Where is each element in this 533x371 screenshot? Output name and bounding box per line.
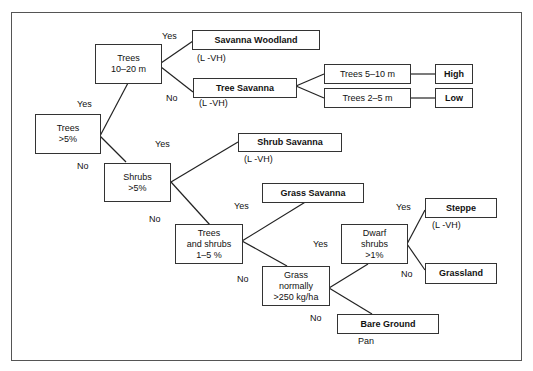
node-dwarf-shrubs: Dwarf shrubs >1% (341, 224, 408, 264)
edge-label-no: No (237, 274, 249, 284)
edge-label-yes: Yes (155, 139, 170, 149)
node-trees-and-shrubs: Trees and shrubs 1–5 % (175, 224, 243, 264)
node-steppe: Steppe (425, 198, 497, 218)
node-shrubs-5: Shrubs >5% (104, 163, 171, 202)
edge-label-no: No (310, 313, 322, 323)
annotation-bare-ground: Pan (358, 336, 374, 346)
annotation-tree-savanna: (L -VH) (199, 98, 228, 108)
node-tree-savanna: Tree Savanna (193, 78, 297, 98)
node-grass-normally: Grass normally >250 kg/ha (262, 266, 330, 306)
edge-label-yes: Yes (234, 201, 249, 211)
edge-label-yes: Yes (162, 31, 177, 41)
edge-label-yes: Yes (77, 99, 92, 109)
node-bare-ground: Bare Ground (337, 314, 439, 334)
annotation-savanna-woodland: (L -VH) (197, 53, 226, 63)
edge-label-yes: Yes (396, 202, 411, 212)
node-shrub-savanna: Shrub Savanna (238, 133, 342, 152)
edge-label-no: No (149, 214, 161, 224)
node-savanna-woodland: Savanna Woodland (192, 30, 320, 50)
edge-label-no: No (77, 161, 89, 171)
node-grass-savanna: Grass Savanna (262, 183, 364, 203)
annotation-steppe: (L -VH) (432, 220, 461, 230)
node-low: Low (435, 88, 473, 108)
edge-label-no: No (401, 269, 413, 279)
node-high: High (435, 64, 473, 84)
edge-label-yes: Yes (313, 239, 328, 249)
edge-label-no: No (166, 93, 178, 103)
node-trees-5-10: Trees 5–10 m (324, 64, 411, 84)
node-trees-2-5: Trees 2–5 m (324, 88, 411, 108)
node-trees-10-20: Trees 10–20 m (95, 44, 162, 84)
annotation-shrub-savanna: (L -VH) (244, 154, 273, 164)
node-grassland: Grassland (425, 263, 497, 284)
node-trees-5: Trees >5% (35, 114, 101, 154)
